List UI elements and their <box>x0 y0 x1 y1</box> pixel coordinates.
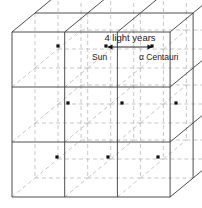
star-sun <box>104 44 107 47</box>
visible-edges-group <box>12 0 202 197</box>
star-r1-c2 <box>174 101 177 104</box>
sun-label: Sun <box>92 52 107 62</box>
lattice-edge-z <box>170 13 193 32</box>
lattice-edge-z <box>163 85 186 104</box>
lattice-edge-z <box>117 123 140 142</box>
lattice-edge-z <box>117 178 140 197</box>
lattice-edge-z <box>58 85 81 104</box>
lattice-edge-z <box>12 68 35 87</box>
lattice-edge-z <box>12 13 35 32</box>
lattice-edge-z <box>35 159 58 178</box>
lattice-edge-z <box>170 123 193 142</box>
lattice-edge-z <box>193 49 202 68</box>
lattice-edge-z <box>88 159 111 178</box>
lattice-edge-z <box>65 178 88 197</box>
star-r2-c1 <box>106 155 109 158</box>
lattice-edge-z <box>193 0 202 13</box>
alpha-centauri-label: α Centauri <box>139 52 179 62</box>
lattice-edge-z <box>111 85 134 104</box>
star-r2-c2 <box>156 155 159 158</box>
lattice-edge-z <box>65 13 88 32</box>
lattice-edge-z <box>140 0 163 13</box>
lattice-edge-z <box>117 13 140 32</box>
lattice-edge-z <box>170 178 193 197</box>
star-lattice-diagram: 4 light years Sun α Centauri <box>0 0 202 208</box>
lattice-svg: 4 light years Sun α Centauri <box>0 0 202 208</box>
star-r0-c0 <box>56 44 59 47</box>
lattice-edge-z <box>170 68 193 87</box>
lattice-edge-z <box>163 30 186 49</box>
lattice-edge-z <box>117 68 140 87</box>
lattice-edge-z <box>65 68 88 87</box>
lattice-edge-z <box>193 104 202 123</box>
lattice-edge-z <box>12 178 35 197</box>
distance-label: 4 light years <box>104 32 155 43</box>
lattice-edge-z <box>58 140 81 159</box>
lattice-edge-z <box>140 159 163 178</box>
lattice-edge-z <box>163 140 186 159</box>
lattice-edge-z <box>140 104 163 123</box>
lattice-edge-z <box>35 104 58 123</box>
lattice-edge-z <box>12 123 35 142</box>
lattice-edge-z <box>88 104 111 123</box>
lattice-edge-z <box>58 30 81 49</box>
lattice-edge-z <box>35 49 58 68</box>
star-r1-c1 <box>120 101 123 104</box>
lattice-edge-z <box>111 140 134 159</box>
lattice-edge-z <box>88 0 111 13</box>
lattice-edge-z <box>65 123 88 142</box>
lattice-edge-z <box>193 159 202 178</box>
lattice-edge-z <box>35 0 58 13</box>
star-r2-c0 <box>55 155 58 158</box>
star-r1-c0 <box>66 101 69 104</box>
